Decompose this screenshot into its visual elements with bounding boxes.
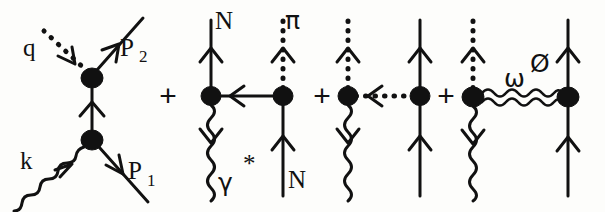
label-gamma-star: * bbox=[243, 150, 256, 177]
nucleon-line-top-right bbox=[557, 20, 579, 88]
nucleon-line-top-right bbox=[409, 20, 431, 88]
left-vertex-blob bbox=[201, 87, 221, 106]
operator-plus-3: + bbox=[437, 79, 455, 112]
diagram-pion-exchange-contact: N π γ * N bbox=[200, 6, 306, 201]
label-p2-base: P bbox=[120, 34, 134, 61]
exchange-line-solid bbox=[218, 86, 276, 106]
diagram-born-s-channel: q P 2 k P 1 bbox=[14, 18, 156, 211]
label-q: q bbox=[23, 34, 36, 61]
photon-line-bottom-left bbox=[337, 105, 359, 201]
left-vertex-blob bbox=[338, 87, 358, 106]
diagram-canvas: q P 2 k P 1 + bbox=[0, 0, 605, 212]
operator-plus-1: + bbox=[159, 79, 177, 112]
label-p1-base: P bbox=[128, 157, 142, 184]
feynman-diagram-figure: q P 2 k P 1 + bbox=[0, 0, 605, 212]
label-p2-subscript: 2 bbox=[139, 47, 148, 66]
label-phi: Ø bbox=[530, 49, 550, 78]
upper-vertex-blob bbox=[81, 68, 103, 88]
pion-line-top-left bbox=[462, 18, 484, 88]
right-vertex-blob bbox=[410, 87, 430, 106]
lower-vertex-blob bbox=[81, 130, 103, 150]
pion-line-top-left bbox=[337, 18, 359, 88]
nucleon-line-bottom-right bbox=[557, 106, 579, 196]
exchange-line-dotted bbox=[356, 86, 414, 106]
label-gamma: γ bbox=[218, 168, 233, 197]
label-n-top: N bbox=[215, 7, 233, 34]
label-p1-subscript: 1 bbox=[147, 171, 156, 190]
label-n-bottom: N bbox=[288, 166, 306, 193]
photon-line-bottom-left bbox=[462, 106, 484, 201]
internal-nucleon-propagator bbox=[80, 86, 104, 132]
label-omega: ω bbox=[504, 64, 525, 93]
left-vertex-blob bbox=[462, 87, 484, 107]
diagram-vector-meson-exchange: ω Ø bbox=[462, 18, 579, 201]
diagram-pion-pole-exchange bbox=[337, 18, 431, 201]
nucleon-line-bottom-right bbox=[409, 105, 431, 196]
operator-plus-2: + bbox=[313, 79, 331, 112]
pion-line-q bbox=[44, 31, 88, 72]
label-pi-top: π bbox=[285, 6, 300, 35]
label-k: k bbox=[20, 147, 33, 174]
right-vertex-blob bbox=[273, 87, 293, 106]
right-vertex-blob bbox=[557, 87, 579, 107]
